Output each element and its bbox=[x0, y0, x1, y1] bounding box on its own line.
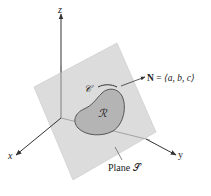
x-axis bbox=[16, 118, 61, 155]
normal-components: ⟨a, b, c⟩ bbox=[164, 73, 195, 83]
surface-plane-diagram: z x y 𝒞 ℛ N = ⟨a, b, c⟩ Plane 𝒮 bbox=[0, 0, 211, 196]
y-axis bbox=[146, 139, 176, 155]
z-axis-label: z bbox=[57, 4, 62, 15]
x-axis-label: x bbox=[7, 150, 13, 161]
normal-equals: = bbox=[154, 73, 164, 83]
normal-vector-label: N = ⟨a, b, c⟩ bbox=[147, 73, 195, 83]
y-axis-label: y bbox=[178, 149, 183, 160]
region-r-label: ℛ bbox=[98, 107, 108, 119]
plane-s-label: Plane 𝒮 bbox=[108, 162, 142, 173]
